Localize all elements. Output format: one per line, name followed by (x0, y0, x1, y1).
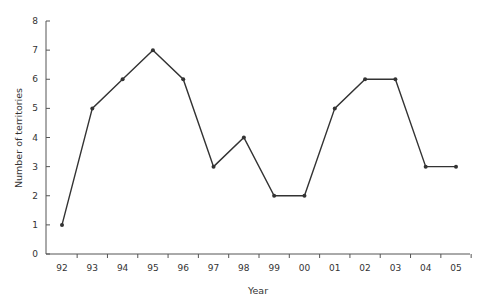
data-point-marker (424, 165, 428, 169)
data-point-marker (212, 165, 216, 169)
y-tick-label: 2 (32, 191, 38, 201)
line-chart: 012345678 9293949596979899000102030405 Y… (0, 0, 486, 306)
y-tick-label: 5 (32, 103, 38, 113)
data-point-marker (302, 194, 306, 198)
data-point-marker (333, 106, 337, 110)
y-axis-ticks: 012345678 (32, 16, 50, 259)
series-line (62, 50, 456, 225)
x-tick-label: 95 (147, 263, 158, 273)
x-tick-label: 02 (359, 263, 370, 273)
x-tick-label: 04 (420, 263, 432, 273)
data-point-marker (151, 48, 155, 52)
data-point-marker (454, 165, 458, 169)
x-tick-label: 00 (299, 263, 311, 273)
y-tick-label: 6 (32, 74, 38, 84)
data-point-marker (121, 77, 125, 81)
y-tick-label: 8 (32, 16, 38, 26)
x-tick-label: 92 (56, 263, 67, 273)
axes (46, 21, 470, 254)
x-tick-label: 97 (208, 263, 219, 273)
y-tick-label: 4 (32, 133, 38, 143)
data-point-marker (272, 194, 276, 198)
x-tick-label: 96 (178, 263, 190, 273)
y-axis-title: Number of territories (13, 88, 24, 188)
x-axis-ticks: 9293949596979899000102030405 (56, 254, 471, 273)
data-series (60, 48, 458, 227)
y-tick-label: 3 (32, 162, 38, 172)
data-point-marker (181, 77, 185, 81)
x-axis-title: Year (247, 285, 268, 296)
data-point-marker (393, 77, 397, 81)
data-point-marker (242, 136, 246, 140)
data-point-marker (363, 77, 367, 81)
data-point-marker (90, 106, 94, 110)
y-tick-label: 7 (32, 45, 38, 55)
x-tick-label: 94 (117, 263, 129, 273)
x-tick-label: 98 (238, 263, 250, 273)
y-tick-label: 1 (32, 220, 38, 230)
x-tick-label: 99 (268, 263, 280, 273)
x-tick-label: 93 (87, 263, 98, 273)
x-tick-label: 05 (450, 263, 461, 273)
data-point-marker (60, 223, 64, 227)
y-tick-label: 0 (32, 249, 38, 259)
x-tick-label: 01 (329, 263, 340, 273)
x-tick-label: 03 (390, 263, 401, 273)
